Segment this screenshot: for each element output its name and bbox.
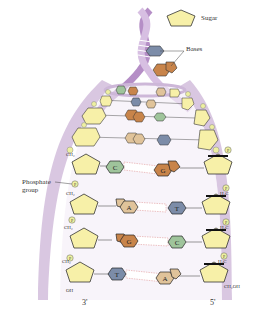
dna-structure-diagram: C G A T G C T A PPP PPPP CH₂ CH₂ (0, 0, 255, 316)
svg-text:C: C (113, 164, 118, 172)
svg-text:T: T (115, 271, 120, 279)
svg-text:CH₂: CH₂ (66, 191, 75, 196)
svg-text:C: C (175, 239, 180, 247)
svg-text:G: G (160, 167, 165, 175)
svg-text:CH₂OH: CH₂OH (224, 284, 240, 289)
svg-text:G: G (126, 238, 131, 246)
phosphate-label-line2: group (22, 186, 38, 194)
svg-text:OH: OH (66, 288, 74, 293)
svg-text:H₂C: H₂C (220, 191, 229, 196)
svg-text:H₂C: H₂C (218, 259, 227, 264)
svg-text:A: A (126, 204, 131, 212)
bases-label: Bases (186, 45, 202, 53)
svg-text:CH₂: CH₂ (66, 152, 75, 157)
three-prime-end-label: 3' (82, 298, 87, 307)
five-prime-end-label: 5' (210, 298, 215, 307)
phosphate-label-line1: Phosphate (22, 178, 51, 186)
legend (146, 10, 195, 76)
svg-text:A: A (162, 275, 167, 283)
phosphate-group-label: Phosphate group (22, 178, 51, 194)
svg-text:CH₂: CH₂ (62, 259, 71, 264)
sugar-label: Sugar (201, 14, 217, 22)
sugar-legend-icon (167, 10, 195, 26)
svg-text:T: T (175, 205, 180, 213)
svg-text:CH₂: CH₂ (64, 225, 73, 230)
svg-text:H₂C: H₂C (220, 225, 229, 230)
